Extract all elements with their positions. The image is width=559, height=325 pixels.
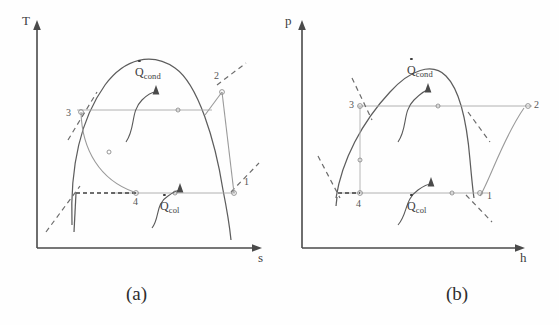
expansion-path-a — [81, 112, 134, 192]
q-col-symbol-b: Q — [407, 200, 416, 212]
superheat-path-b — [480, 108, 524, 196]
q-cond-label-b: Qcond — [407, 64, 433, 76]
panel-b-plot — [280, 0, 559, 325]
caption-a: (a) — [126, 283, 147, 305]
panel-b-ph-diagram: p h 1 2 3 4 Qcond Qcol (b) — [280, 0, 559, 325]
state-point-4-b: 4 — [356, 198, 361, 209]
q-cond-leader-a — [126, 92, 156, 142]
q-cond-label-a: Qcond — [135, 66, 161, 78]
saturation-dome-a — [72, 59, 231, 240]
state-point-1-a: 1 — [244, 176, 249, 187]
axis-label-enthalpy: h — [520, 250, 527, 266]
isotherm-dash-upper-left-b — [352, 78, 372, 120]
x-axis-a — [37, 244, 262, 252]
liquid-line-a — [74, 193, 76, 232]
compression-path-a — [222, 92, 234, 193]
panel-a-ts-diagram: T s 1 2 3 4 Qcond Qcol (a) — [0, 0, 279, 325]
q-col-subscript-a: col — [169, 205, 180, 215]
figure-root: T s 1 2 3 4 Qcond Qcol (a) — [0, 0, 559, 325]
axis-label-temperature: T — [22, 13, 30, 29]
q-cond-subscript-a: cond — [144, 71, 161, 81]
panel-a-plot — [0, 0, 279, 325]
axis-label-pressure: p — [285, 13, 292, 29]
caption-b: (b) — [446, 283, 468, 305]
y-axis-b — [298, 20, 306, 248]
state-point-2-a: 2 — [214, 70, 219, 81]
state-point-3-b: 3 — [349, 99, 354, 110]
q-col-label-a: Qcol — [160, 200, 180, 212]
state-point-3-a: 3 — [66, 107, 71, 118]
q-cond-subscript-b: cond — [416, 69, 433, 79]
isotherm-dash-lower-left-b — [318, 156, 340, 198]
state-point-1-b: 1 — [487, 190, 492, 201]
q-cond-leader-b — [398, 90, 428, 142]
isotherm-dash-upper-right-b — [468, 112, 490, 142]
q-cond-symbol-a: Q — [135, 66, 144, 78]
q-col-subscript-b: col — [416, 205, 427, 215]
q-col-symbol-a: Q — [160, 200, 169, 212]
isobar-dash-upper-right-a — [217, 63, 246, 85]
axis-label-entropy: s — [258, 250, 263, 266]
q-col-label-b: Qcol — [407, 200, 427, 212]
liquid-line-b — [336, 197, 337, 206]
state-point-2-b: 2 — [534, 99, 539, 110]
x-axis-b — [302, 244, 525, 252]
state-point-4-a: 4 — [133, 196, 138, 207]
desuperheat-path-a — [205, 92, 222, 115]
state-markers-b — [358, 104, 531, 196]
y-axis-a — [33, 20, 41, 248]
q-cond-symbol-b: Q — [407, 64, 416, 76]
